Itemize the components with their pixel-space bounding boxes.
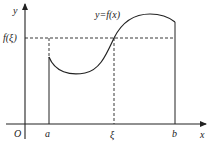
a-label: a — [45, 128, 50, 139]
y-axis-label: y — [12, 5, 18, 16]
x-axis-label: x — [199, 129, 205, 140]
b-label: b — [172, 128, 177, 139]
diagram-canvas: y x O a ξ b f(ξ) y=f(x) — [0, 0, 211, 144]
curve-label: y=f(x) — [94, 9, 121, 21]
origin-label: O — [14, 128, 21, 139]
curve-f — [49, 14, 175, 74]
f-xi-label: f(ξ) — [3, 32, 17, 44]
xi-label: ξ — [110, 129, 115, 141]
